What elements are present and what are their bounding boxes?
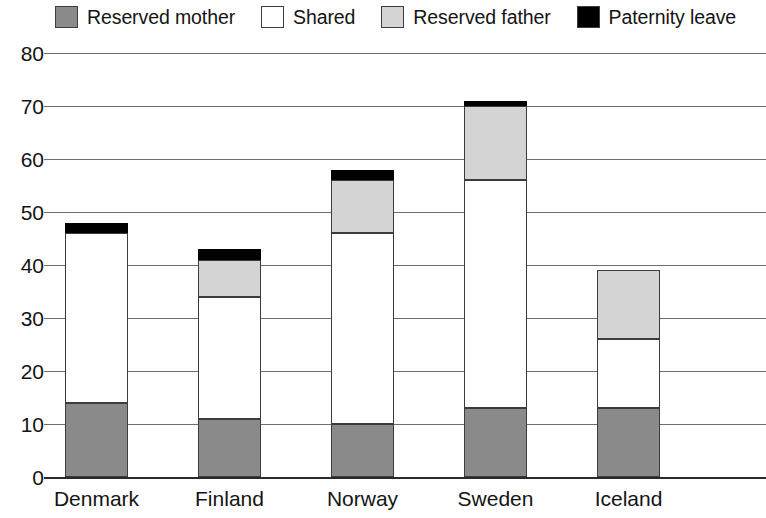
y-tick-label: 20 xyxy=(21,361,44,382)
bar-group[interactable] xyxy=(597,34,660,518)
bar-segment[interactable] xyxy=(331,180,394,233)
legend-item[interactable]: Shared xyxy=(261,6,355,28)
bars-layer xyxy=(44,34,766,518)
x-tick-label: Iceland xyxy=(571,487,686,511)
y-tick-label: 60 xyxy=(21,149,44,170)
plot-area: 01020304050607080 xyxy=(0,34,766,518)
bar-segment[interactable] xyxy=(198,249,261,260)
x-axis: DenmarkFinlandNorwaySwedenIceland xyxy=(44,484,766,518)
y-tick-label: 30 xyxy=(21,308,44,329)
legend-item-label: Reserved father xyxy=(413,6,550,28)
bar-segment[interactable] xyxy=(597,270,660,339)
bar-segment[interactable] xyxy=(331,233,394,424)
bar-segment[interactable] xyxy=(597,408,660,477)
bar-segment[interactable] xyxy=(65,403,128,477)
y-tick-label: 80 xyxy=(21,43,44,64)
bar-segment[interactable] xyxy=(464,101,527,106)
y-tick-label: 50 xyxy=(21,202,44,223)
y-tick-label: 10 xyxy=(21,414,44,435)
x-tick-label: Finland xyxy=(172,487,287,511)
bar-group[interactable] xyxy=(464,34,527,518)
bar-segment[interactable] xyxy=(464,180,527,408)
chart-legend: Reserved motherSharedReserved fatherPate… xyxy=(0,0,766,34)
bar-segment[interactable] xyxy=(331,424,394,477)
legend-item[interactable]: Paternity leave xyxy=(577,6,737,28)
bar-segment[interactable] xyxy=(198,260,261,297)
legend-item-label: Shared xyxy=(293,6,355,28)
bar-group[interactable] xyxy=(331,34,394,518)
legend-item[interactable]: Reserved mother xyxy=(55,6,235,28)
legend-swatch-icon xyxy=(261,6,284,28)
legend-swatch-icon xyxy=(55,6,78,28)
x-tick-label: Denmark xyxy=(39,487,154,511)
y-axis: 01020304050607080 xyxy=(0,34,44,518)
bar-segment[interactable] xyxy=(464,106,527,180)
legend-swatch-icon xyxy=(577,6,600,28)
bar-segment[interactable] xyxy=(331,170,394,181)
x-tick-label: Sweden xyxy=(438,487,553,511)
stacked-bar-chart: Reserved motherSharedReserved fatherPate… xyxy=(0,0,766,518)
bar-segment[interactable] xyxy=(597,339,660,408)
bar-group[interactable] xyxy=(65,34,128,518)
bar-segment[interactable] xyxy=(198,297,261,419)
legend-item-label: Reserved mother xyxy=(87,6,235,28)
bar-group[interactable] xyxy=(198,34,261,518)
bar-segment[interactable] xyxy=(198,419,261,477)
y-tick-label: 70 xyxy=(21,96,44,117)
bar-segment[interactable] xyxy=(65,223,128,234)
bar-segment[interactable] xyxy=(464,408,527,477)
legend-item[interactable]: Reserved father xyxy=(381,6,550,28)
y-tick-label: 40 xyxy=(21,255,44,276)
legend-swatch-icon xyxy=(381,6,404,28)
y-tick-label: 0 xyxy=(32,467,44,488)
x-tick-label: Norway xyxy=(305,487,420,511)
bar-segment[interactable] xyxy=(65,233,128,403)
legend-item-label: Paternity leave xyxy=(609,6,737,28)
